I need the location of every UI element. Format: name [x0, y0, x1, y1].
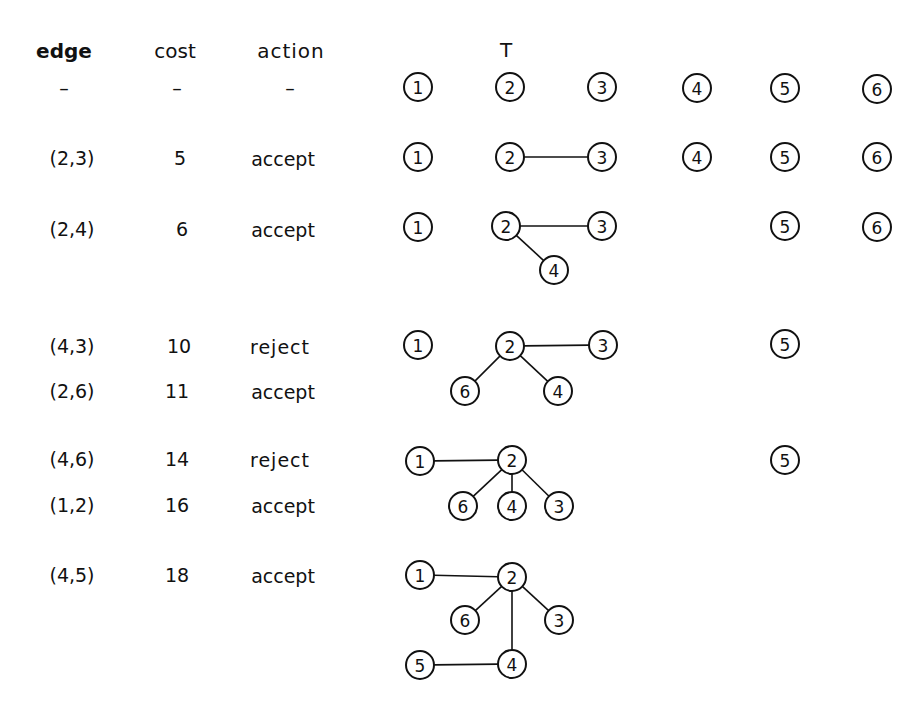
- vertex-node-1: 1: [406, 561, 434, 589]
- svg-text:4: 4: [553, 382, 564, 402]
- tree-edge: [475, 586, 501, 610]
- vertex-node-5: 5: [771, 330, 799, 358]
- vertex-node-1: 1: [406, 447, 434, 475]
- forest-stage: 126354: [406, 561, 573, 679]
- vertex-node-4: 4: [683, 74, 711, 102]
- tree-edge: [522, 470, 549, 496]
- vertex-node-2: 2: [496, 143, 524, 171]
- vertex-node-1: 1: [404, 331, 432, 359]
- svg-text:1: 1: [413, 218, 424, 238]
- vertex-node-2: 2: [492, 212, 520, 240]
- svg-text:2: 2: [505, 78, 516, 98]
- svg-text:1: 1: [413, 78, 424, 98]
- svg-text:6: 6: [460, 611, 471, 631]
- vertex-node-5: 5: [771, 74, 799, 102]
- svg-text:3: 3: [554, 497, 565, 517]
- forest-stage: 123456: [404, 73, 891, 103]
- svg-text:3: 3: [598, 336, 609, 356]
- vertex-node-1: 1: [404, 143, 432, 171]
- vertex-node-6: 6: [863, 143, 891, 171]
- svg-text:2: 2: [507, 451, 518, 471]
- vertex-node-4: 4: [683, 143, 711, 171]
- svg-text:6: 6: [460, 382, 471, 402]
- svg-text:6: 6: [458, 497, 469, 517]
- vertex-node-4: 4: [498, 492, 526, 520]
- vertex-node-3: 3: [588, 212, 616, 240]
- vertex-node-6: 6: [863, 213, 891, 241]
- svg-text:2: 2: [505, 337, 516, 357]
- spanning-forest-diagram: 123456123456123456123645126435126354: [0, 0, 923, 713]
- svg-text:6: 6: [872, 80, 883, 100]
- svg-text:2: 2: [501, 217, 512, 237]
- vertex-node-5: 5: [771, 212, 799, 240]
- svg-text:4: 4: [692, 148, 703, 168]
- svg-text:4: 4: [507, 497, 518, 517]
- tree-edge: [520, 356, 548, 382]
- svg-text:5: 5: [780, 148, 791, 168]
- forest-stage: 123456: [404, 212, 891, 284]
- svg-text:4: 4: [507, 655, 518, 675]
- vertex-node-6: 6: [449, 492, 477, 520]
- svg-text:4: 4: [692, 79, 703, 99]
- vertex-node-5: 5: [771, 143, 799, 171]
- svg-text:5: 5: [780, 79, 791, 99]
- svg-text:3: 3: [597, 217, 608, 237]
- svg-text:1: 1: [415, 566, 426, 586]
- tree-edge: [434, 575, 498, 576]
- tree-edge: [475, 356, 500, 381]
- forest-stage: 126435: [406, 446, 799, 520]
- vertex-node-4: 4: [498, 650, 526, 678]
- tree-edge: [434, 460, 498, 461]
- tree-edge: [434, 664, 498, 665]
- vertex-node-4: 4: [540, 256, 568, 284]
- tree-edge: [522, 586, 548, 610]
- svg-text:3: 3: [554, 611, 565, 631]
- forest-stage: 123645: [404, 330, 799, 405]
- vertex-node-1: 1: [404, 73, 432, 101]
- vertex-node-2: 2: [496, 73, 524, 101]
- svg-text:2: 2: [507, 568, 518, 588]
- tree-edge: [473, 470, 502, 497]
- tree-edge: [516, 235, 543, 260]
- vertex-node-3: 3: [588, 143, 616, 171]
- vertex-node-3: 3: [545, 492, 573, 520]
- vertex-node-4: 4: [544, 377, 572, 405]
- vertex-node-2: 2: [498, 563, 526, 591]
- svg-text:6: 6: [872, 218, 883, 238]
- svg-text:2: 2: [505, 148, 516, 168]
- tree-edge: [524, 345, 589, 346]
- svg-text:5: 5: [780, 217, 791, 237]
- vertex-node-3: 3: [545, 606, 573, 634]
- vertex-node-6: 6: [451, 377, 479, 405]
- svg-text:1: 1: [413, 148, 424, 168]
- vertex-node-6: 6: [451, 606, 479, 634]
- svg-text:1: 1: [413, 336, 424, 356]
- vertex-node-3: 3: [589, 331, 617, 359]
- svg-text:3: 3: [597, 148, 608, 168]
- svg-text:5: 5: [780, 451, 791, 471]
- vertex-node-6: 6: [863, 75, 891, 103]
- svg-text:4: 4: [549, 261, 560, 281]
- forest-stage: 123456: [404, 143, 891, 171]
- vertex-node-2: 2: [496, 332, 524, 360]
- svg-text:5: 5: [780, 335, 791, 355]
- svg-text:5: 5: [415, 656, 426, 676]
- vertex-node-5: 5: [406, 651, 434, 679]
- svg-text:6: 6: [872, 148, 883, 168]
- vertex-node-5: 5: [771, 446, 799, 474]
- vertex-node-3: 3: [588, 73, 616, 101]
- vertex-node-1: 1: [404, 213, 432, 241]
- svg-text:3: 3: [597, 78, 608, 98]
- vertex-node-2: 2: [498, 446, 526, 474]
- svg-text:1: 1: [415, 452, 426, 472]
